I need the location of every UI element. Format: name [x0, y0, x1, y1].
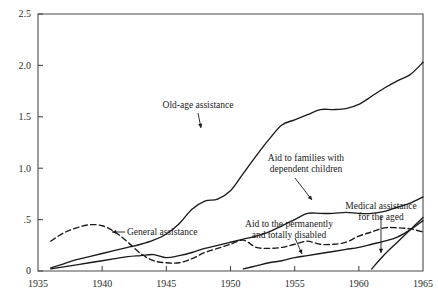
welfare-programs-line-chart: 0.51.01.52.02.5 193519401945195019551960… — [0, 0, 438, 306]
annotation-group: Old-age assistanceAid to families withde… — [112, 100, 417, 254]
annotation-old-age-assistance: Old-age assistance — [163, 100, 234, 128]
y-tick-label: .5 — [24, 214, 32, 225]
x-tick-label: 1945 — [156, 278, 176, 289]
annotation-general-assistance: General assistance — [112, 227, 197, 237]
series-line-general-assistance — [51, 225, 423, 264]
annotation-aid-to-the-permanently-and-totally-disabled: Aid to the permanentlyand totally disabl… — [245, 219, 333, 254]
annotation-label-old-age-assistance: Old-age assistance — [163, 100, 234, 110]
series-line-medical-assistance-for-the-aged — [372, 218, 423, 269]
y-tick-label: 1.0 — [19, 163, 32, 174]
y-tick-label: 2.5 — [19, 8, 32, 19]
annotation-line: Aid to families with — [268, 153, 345, 163]
annotation-line: and totally disabled — [252, 230, 327, 240]
annotation-line: Old-age assistance — [163, 100, 234, 110]
annotation-label-aid-to-the-permanently-and-totally-disabled: Aid to the permanentlyand totally disabl… — [245, 219, 333, 240]
y-axis-ticks: 0.51.01.52.02.5 — [19, 8, 44, 276]
annotation-arrowhead-old-age-assistance — [198, 123, 202, 128]
annotation-arrowhead-medical-assistance-for-the-aged — [379, 249, 383, 253]
x-tick-label: 1955 — [285, 278, 305, 289]
annotation-line: dependent children — [270, 164, 343, 174]
x-tick-label: 1935 — [28, 278, 48, 289]
annotation-label-aid-to-families-with-dependent-children: Aid to families withdependent children — [268, 153, 345, 174]
plot-frame — [38, 14, 423, 271]
x-tick-label: 1965 — [413, 278, 433, 289]
x-tick-label: 1950 — [221, 278, 241, 289]
y-tick-label: 1.5 — [19, 111, 32, 122]
annotation-line: General assistance — [127, 227, 197, 237]
series-group — [51, 62, 423, 269]
annotation-line: Aid to the permanently — [245, 219, 333, 229]
annotation-aid-to-families-with-dependent-children: Aid to families withdependent children — [268, 153, 345, 200]
y-tick-label: 0 — [26, 265, 31, 276]
annotation-medical-assistance-for-the-aged: Medical assistancefor the aged — [345, 201, 417, 253]
annotation-line: Medical assistance — [345, 201, 417, 211]
x-tick-label: 1960 — [349, 278, 369, 289]
y-tick-label: 2.0 — [19, 60, 32, 71]
annotation-label-general-assistance: General assistance — [127, 227, 197, 237]
x-axis-ticks: 1935194019451950195519601965 — [28, 266, 433, 289]
chart-page: 0.51.01.52.02.5 193519401945195019551960… — [0, 0, 438, 306]
x-tick-label: 1940 — [92, 278, 112, 289]
series-line-old-age-assistance — [51, 62, 423, 268]
